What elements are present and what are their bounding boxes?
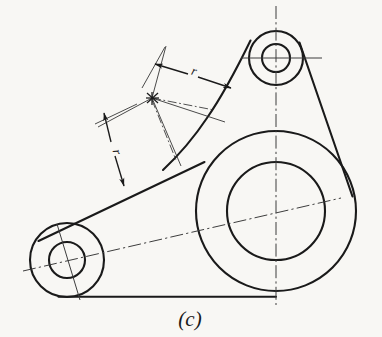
- construction-ray-upper-left: [152, 46, 166, 98]
- left-boss-outer-circle: [30, 223, 104, 297]
- figure-canvas: r r (c): [0, 0, 382, 337]
- extension-line-upper: [142, 47, 165, 88]
- left-web-edge: [39, 162, 205, 241]
- inclined-centerline: [23, 198, 341, 271]
- upper-fillet-edge: [163, 41, 251, 171]
- radius-center-mark: [146, 92, 159, 105]
- radius-centerline-down: [152, 100, 176, 160]
- technical-drawing: r r (c): [0, 0, 382, 337]
- construction-ray-upper-right: [152, 98, 225, 122]
- left-boss-bore-circle: [49, 242, 85, 278]
- left-boss: [30, 223, 104, 297]
- dimension-construction-lines: [95, 46, 225, 166]
- short-centerlines: [57, 58, 322, 300]
- extension-line-lower: [95, 104, 137, 124]
- lower-dimension-line-bottom: [115, 156, 124, 186]
- upper-dimension-line-right: [198, 77, 231, 88]
- centerlines: [23, 6, 341, 305]
- construction-ray-lower-right: [152, 98, 181, 166]
- lower-radius-label: r: [109, 148, 125, 157]
- figure-caption: (c): [178, 307, 201, 331]
